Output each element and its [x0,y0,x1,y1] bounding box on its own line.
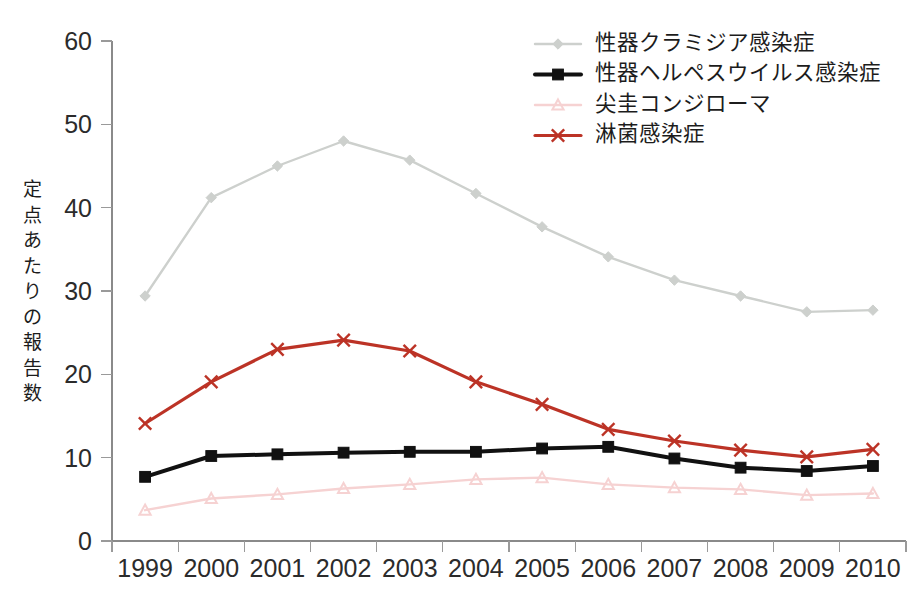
y-tick-label: 50 [64,110,92,138]
data-point-marker [206,451,217,462]
x-tick-label: 1999 [117,554,173,582]
chart-container: 0102030405060 19992000200120022003200420… [0,0,920,596]
data-point-marker [801,466,812,477]
y-tick-label: 10 [64,444,92,472]
x-tick-label: 2008 [713,554,769,582]
x-tick-label: 2000 [183,554,239,582]
legend-item-label: 性器クラミジア感染症 [595,31,815,55]
line-chart: 0102030405060 19992000200120022003200420… [0,0,920,596]
x-tick-label: 2009 [779,554,835,582]
y-axis-title: 定点あたりの報告数 [23,179,42,404]
data-point-marker [669,453,680,464]
y-axis-title-char: 数 [23,383,42,404]
data-point-marker [537,443,548,454]
x-tick-label: 2006 [580,554,636,582]
y-tick-label: 60 [64,27,92,55]
x-tick-label: 2003 [382,554,438,582]
y-tick-label: 40 [64,194,92,222]
x-tick-label: 2010 [845,554,901,582]
x-tick-label: 2007 [647,554,703,582]
data-point-marker [868,461,879,472]
y-axis-title-char: 告 [23,358,42,379]
y-tick-label: 0 [78,527,92,555]
legend-item-label: 淋菌感染症 [595,122,705,146]
data-point-marker [735,462,746,473]
y-axis-title-char: り [23,281,42,302]
x-tick-label: 2005 [514,554,570,582]
legend-item-label: 性器ヘルペスウイルス感染症 [595,61,881,85]
data-point-marker [553,69,564,80]
data-point-marker [603,441,614,452]
y-tick-label: 20 [64,360,92,388]
chart-background [0,0,920,596]
y-axis-title-char: 点 [23,205,42,226]
y-axis-title-char: 定 [23,179,42,200]
data-point-marker [272,449,283,460]
y-tick-label: 30 [64,277,92,305]
y-axis-title-char: た [23,256,42,277]
data-point-marker [471,446,482,457]
y-axis-title-char: の [23,307,42,328]
data-point-marker [404,446,415,457]
data-point-marker [338,447,349,458]
y-axis-title-char: あ [23,230,42,251]
x-tick-label: 2001 [250,554,306,582]
legend-item-label: 尖圭コンジローマ [595,92,771,116]
data-point-marker [140,471,151,482]
y-axis-title-char: 報 [23,332,42,353]
x-tick-label: 2002 [316,554,372,582]
x-tick-label: 2004 [448,554,504,582]
